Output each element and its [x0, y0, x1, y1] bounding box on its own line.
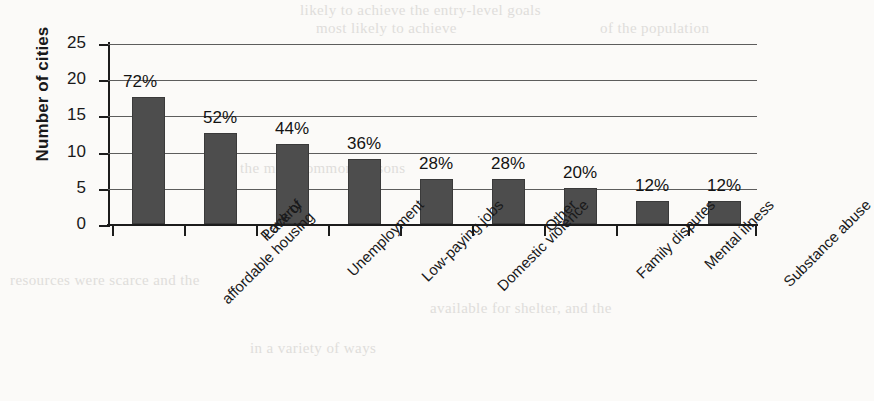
y-tick: 5: [99, 189, 108, 191]
x-tick: [616, 225, 618, 236]
y-tick-label: 0: [77, 214, 86, 234]
y-axis-line: [108, 42, 110, 227]
bar: [636, 201, 669, 224]
gridline: [108, 80, 757, 81]
plot-area: 0510152025: [108, 44, 757, 225]
bar-value-label: 72%: [123, 72, 157, 92]
category-label: Substance abuse: [780, 196, 874, 290]
bar-value-label: 52%: [203, 108, 237, 128]
bar-value-label: 28%: [491, 154, 525, 174]
bar-value-label: 28%: [419, 154, 453, 174]
y-tick-label: 10: [67, 142, 86, 162]
bar-value-label: 12%: [707, 176, 741, 196]
y-tick: 20: [99, 80, 108, 82]
y-axis-title: Number of cities: [33, 0, 53, 189]
bar: [420, 179, 453, 224]
y-tick: 0: [99, 225, 108, 227]
y-tick: 15: [99, 116, 108, 118]
bar: [132, 97, 165, 224]
y-tick-label: 25: [67, 33, 86, 53]
y-tick-label: 20: [67, 69, 86, 89]
bar-value-label: 12%: [635, 176, 669, 196]
gridline: [108, 44, 757, 45]
bar-value-label: 20%: [563, 163, 597, 183]
y-tick: 10: [99, 153, 108, 155]
x-tick: [112, 225, 114, 236]
bar-value-label: 44%: [275, 119, 309, 139]
x-axis-line: [107, 224, 758, 226]
y-tick: 25: [99, 44, 108, 46]
x-tick: [184, 225, 186, 236]
bar: [204, 133, 237, 224]
bar: [348, 159, 381, 224]
bar-value-label: 36%: [347, 134, 381, 154]
x-tick: [328, 225, 330, 236]
category-label-line: Substance abuse: [780, 196, 874, 290]
y-tick-label: 15: [67, 105, 86, 125]
y-tick-label: 5: [77, 178, 86, 198]
